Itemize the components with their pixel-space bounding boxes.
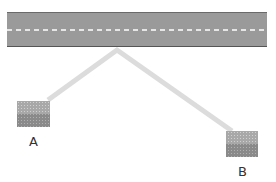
road: [7, 12, 267, 47]
path-to-houses: [48, 50, 232, 131]
house-a-label: A: [29, 135, 38, 148]
diagram-canvas: [0, 0, 276, 182]
house-a: [17, 101, 50, 127]
house-b: [226, 131, 258, 157]
house-b-label: B: [238, 165, 247, 178]
